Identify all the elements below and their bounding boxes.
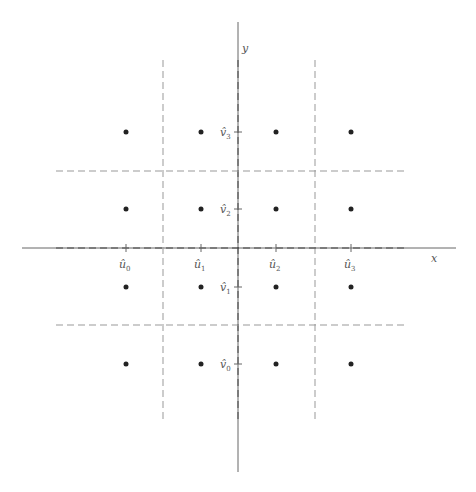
diagram-canvas: y x û0 û1 û2 û3 v̂3 v̂2 v̂1 v̂0 (0, 0, 476, 492)
y-tick-label-v2: v̂2 (220, 203, 231, 218)
y-tick-label-v3: v̂3 (220, 126, 231, 141)
y-tick-label-v1: v̂1 (220, 281, 231, 296)
y-tick-label-v0: v̂0 (220, 358, 231, 373)
x-tick-label-u3: û3 (344, 258, 356, 273)
y-axis-label: y (241, 42, 249, 55)
x-axis-label: x (431, 252, 438, 265)
x-tick-label-u2: û2 (269, 258, 281, 273)
quantization-lattice-diagram: y x û0 û1 û2 û3 v̂3 v̂2 v̂1 v̂0 (0, 0, 476, 492)
x-tick-label-u0: û0 (119, 258, 131, 273)
x-tick-label-u1: û1 (194, 258, 206, 273)
